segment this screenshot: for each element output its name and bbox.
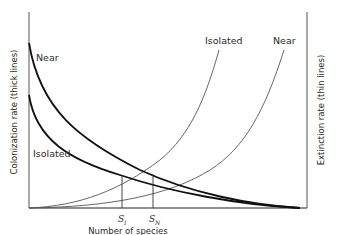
colonization-curve-near [29,43,300,208]
label-near-colonization: Near [36,52,59,63]
x-axis-title: Number of species [88,226,168,235]
label-isolated-extinction: Isolated [205,35,243,46]
left-axis-title: Colonization rate (thick lines) [9,50,19,175]
label-near-extinction: Near [273,35,296,46]
s-n-subscript: N [154,219,161,226]
label-isolated-colonization: Isolated [33,148,71,159]
extinction-curve-isolated [29,50,219,208]
right-axis-title: Extinction rate (thin lines) [316,55,326,166]
extinction-curve-near [29,50,284,208]
equilibrium-diagram: Near Isolated Isolated Near S I S N Numb… [0,0,338,235]
s-i-subscript: I [123,219,127,226]
